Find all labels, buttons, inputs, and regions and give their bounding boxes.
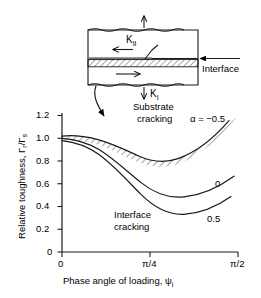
x-tick-label-0: 0	[58, 258, 63, 269]
curve-label-alpha-0-5: 0.5	[207, 213, 220, 224]
y-tick-label-0: 0	[47, 246, 52, 257]
x-tick-label-pi-2: π/2	[230, 258, 244, 269]
curve-label-alpha-0: 0	[215, 178, 220, 189]
substrate-layer-hatch	[88, 60, 198, 67]
interface-cracking-label-line1: Interface	[114, 209, 151, 220]
substrate-cracking-label-line1: Substrate	[133, 101, 174, 112]
substrate-cracking-label-line2: cracking	[137, 113, 172, 124]
y-tick-label-0-4: 0.4	[36, 200, 49, 211]
y-tick-label-1-0: 1.0	[36, 132, 49, 143]
y-axis-ticks	[58, 116, 63, 253]
curve-alpha-0-5	[62, 141, 231, 215]
k1-label: KI	[150, 88, 159, 101]
interface-cracking-label-line2: cracking	[114, 221, 149, 232]
y-tick-label-1-2: 1.2	[36, 109, 49, 120]
x-axis-ticks	[62, 252, 238, 257]
curve-alpha-0	[62, 138, 234, 197]
y-axis-title: Relative toughness, Γr/Γs	[16, 116, 29, 256]
curve-label-alpha-minus-0-5: α = −0.5	[190, 113, 225, 124]
k2-label: KII	[126, 34, 137, 47]
x-axis-title: Phase angle of loading, ψi	[63, 275, 173, 288]
callout-curved-arrow	[95, 86, 104, 116]
y-tick-label-0-8: 0.8	[36, 155, 49, 166]
y-tick-label-0-6: 0.6	[36, 178, 49, 189]
x-tick-label-pi-4: π/4	[142, 258, 156, 269]
y-tick-label-0-2: 0.2	[36, 223, 49, 234]
interface-label: Interface	[202, 63, 239, 74]
plot-area	[58, 113, 239, 257]
